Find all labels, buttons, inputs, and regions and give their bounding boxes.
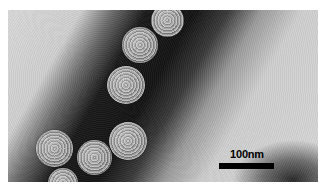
scale-bar-label: 100nm <box>226 148 268 160</box>
electron-micrograph <box>8 10 318 182</box>
virus-particle <box>151 10 184 37</box>
scale-bar <box>219 163 274 169</box>
virus-particle <box>107 66 145 104</box>
virus-particle <box>36 130 73 167</box>
virus-particle <box>77 140 112 175</box>
virus-particle <box>122 27 158 63</box>
virus-particle <box>109 122 147 160</box>
virus-particle <box>48 168 78 182</box>
